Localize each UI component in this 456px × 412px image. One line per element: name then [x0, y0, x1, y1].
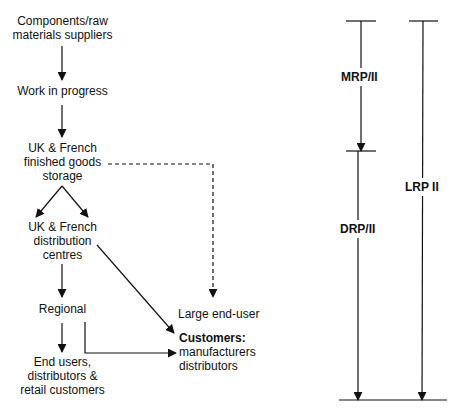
distribution-line-3: centres: [10, 248, 115, 262]
scope-label-mrp: MRP/II: [341, 68, 378, 86]
arrow-storage-to-distribution-right: [62, 186, 88, 217]
suppliers-line-2: materials suppliers: [5, 28, 120, 42]
customers-line-distributors: distributors: [179, 359, 256, 373]
node-distribution-centres: UK & French distribution centres: [10, 220, 115, 262]
node-regional: Regional: [20, 302, 105, 316]
large-end-user-label: Large end-user: [178, 307, 259, 321]
storage-line-2: finished goods: [10, 155, 115, 169]
customers-title: Customers:: [179, 331, 256, 345]
storage-line-3: storage: [10, 169, 115, 183]
node-work-in-progress: Work in progress: [5, 84, 120, 98]
dashed-arrow-storage-to-large-end-user: [108, 164, 213, 297]
node-finished-goods-storage: UK & French finished goods storage: [10, 141, 115, 183]
arrow-storage-to-distribution-left: [36, 186, 62, 217]
arrow-regional-to-customers: [85, 322, 176, 353]
distribution-line-1: UK & French: [10, 220, 115, 234]
node-customers: Customers: manufacturers distributors: [179, 331, 256, 373]
node-suppliers: Components/raw materials suppliers: [5, 14, 120, 42]
scope-label-lrp: LRP II: [405, 178, 439, 196]
end-users-line-1: End users,: [5, 355, 120, 369]
node-large-end-user: Large end-user: [178, 307, 259, 321]
distribution-line-2: distribution: [10, 234, 115, 248]
customers-line-manufacturers: manufacturers: [179, 345, 256, 359]
suppliers-line-1: Components/raw: [5, 14, 120, 28]
regional-label: Regional: [20, 302, 105, 316]
node-end-users: End users, distributors & retail custome…: [5, 355, 120, 397]
end-users-line-3: retail customers: [5, 383, 120, 397]
end-users-line-2: distributors &: [5, 369, 120, 383]
scope-label-drp: DRP/II: [340, 220, 375, 238]
lrp-range-arrow: [422, 21, 423, 400]
storage-line-1: UK & French: [10, 141, 115, 155]
wip-label: Work in progress: [5, 84, 120, 98]
